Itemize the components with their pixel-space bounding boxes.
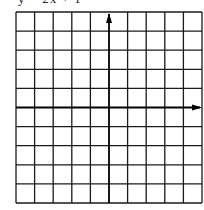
coordinate-grid — [0, 0, 204, 210]
axes — [16, 13, 202, 203]
x-axis-arrow-icon — [192, 105, 202, 111]
y-axis-arrow-icon — [106, 13, 112, 23]
